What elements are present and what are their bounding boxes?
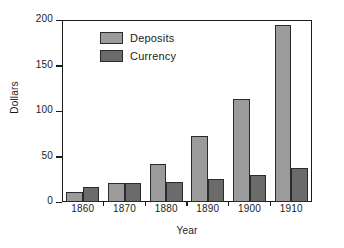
x-tick-label-1860: 1860 — [63, 203, 103, 214]
x-tick-label-1890: 1890 — [188, 203, 228, 214]
y-tick-label: 50 — [41, 150, 53, 161]
bar-deposits-1860 — [66, 192, 83, 202]
bar-currency-1870 — [125, 183, 142, 202]
y-tick-label: 150 — [36, 59, 53, 70]
legend-item-deposits: Deposits — [100, 30, 176, 45]
bar-group — [275, 20, 308, 202]
x-axis-title: Year — [62, 225, 312, 236]
bar-deposits-1900 — [233, 99, 250, 202]
bar-currency-1910 — [291, 168, 308, 202]
bar-deposits-1890 — [191, 136, 208, 202]
bar-currency-1880 — [166, 182, 183, 202]
bar-currency-1900 — [250, 175, 267, 202]
legend-swatch-currency — [100, 50, 123, 62]
x-tick-label-1910: 1910 — [271, 203, 311, 214]
x-tick-label-1880: 1880 — [146, 203, 186, 214]
y-axis-title: Dollars — [9, 68, 20, 128]
x-tick-label-1900: 1900 — [230, 203, 270, 214]
legend-label-deposits: Deposits — [130, 32, 174, 44]
legend-item-currency: Currency — [100, 48, 176, 63]
bar-group — [191, 20, 224, 202]
bar-currency-1860 — [83, 187, 100, 202]
x-tick-label-1870: 1870 — [105, 203, 145, 214]
bar-chart-figure: Dollars 050100150200 1860187018801890190… — [0, 0, 344, 248]
bar-deposits-1910 — [275, 25, 292, 202]
y-tick-label: 0 — [47, 195, 53, 206]
bar-group — [66, 20, 99, 202]
chart-legend: DepositsCurrency — [100, 30, 176, 66]
legend-label-currency: Currency — [130, 50, 176, 62]
bar-deposits-1870 — [108, 183, 125, 202]
y-tick-label: 200 — [36, 13, 53, 24]
bar-deposits-1880 — [150, 164, 167, 202]
bar-currency-1890 — [208, 179, 225, 202]
y-tick-label: 100 — [36, 104, 53, 115]
legend-swatch-deposits — [100, 32, 123, 44]
bar-group — [233, 20, 266, 202]
x-axis-ticks: 186018701880189019001910 — [62, 203, 312, 221]
